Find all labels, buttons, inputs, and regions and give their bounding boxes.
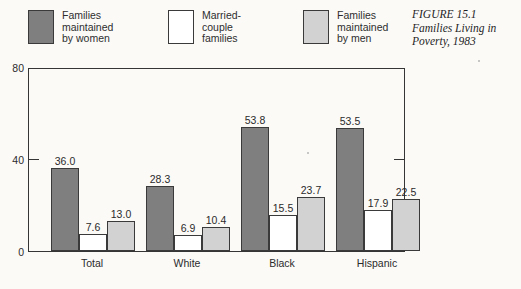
bar-hispanic-women[interactable]: 53.5: [336, 128, 364, 251]
x-tick-label-total: Total: [81, 257, 103, 269]
bar-black-married[interactable]: 15.5: [269, 215, 297, 251]
bar-value-black-women: 53.8: [245, 114, 265, 126]
legend-swatch-light-icon: [303, 10, 329, 44]
bar-black-men[interactable]: 23.7: [297, 197, 325, 252]
x-tick-label-white: White: [174, 257, 201, 269]
bar-hispanic-men[interactable]: 22.5: [392, 199, 420, 251]
bar-white-women[interactable]: 28.3: [146, 186, 174, 251]
y-tick-label-80: 80: [12, 62, 24, 74]
legend-item-married-couple-families: Married- couple families: [168, 10, 241, 45]
plot-frame: 36.0 7.6 13.0 28.3 6.9: [28, 68, 405, 252]
y-tick-label-40: 40: [12, 154, 24, 166]
bar-value-hispanic-married: 17.9: [368, 197, 388, 209]
figure-caption: FIGURE 15.1 Families Living in Poverty, …: [412, 8, 520, 49]
bar-value-white-married: 6.9: [181, 222, 196, 234]
bar-total-men[interactable]: 13.0: [107, 221, 135, 251]
legend-item-families-maintained-by-men: Families maintained by men: [303, 10, 388, 45]
figure-page: Families maintained by women Married- co…: [0, 0, 521, 289]
bar-black-women[interactable]: 53.8: [241, 127, 269, 251]
bar-value-total-men: 13.0: [111, 208, 131, 220]
bar-value-total-married: 7.6: [86, 221, 101, 233]
bar-white-married[interactable]: 6.9: [174, 235, 202, 251]
legend-label-families-maintained-by-men: Families maintained by men: [337, 10, 388, 45]
legend-label-families-maintained-by-women: Families maintained by women: [62, 10, 113, 45]
bar-value-black-married: 15.5: [273, 202, 293, 214]
bar-total-women[interactable]: 36.0: [51, 168, 79, 251]
x-tick-label-hispanic: Hispanic: [357, 257, 397, 269]
y-axis: 80 40 0: [0, 68, 24, 252]
bar-group-white: 28.3 6.9 10.4: [146, 69, 230, 251]
bar-value-hispanic-men: 22.5: [396, 186, 416, 198]
bar-group-hispanic: 53.5 17.9 22.5: [336, 69, 420, 251]
legend-swatch-white-icon: [168, 10, 194, 44]
scan-speck: [307, 152, 309, 154]
legend-label-married-couple-families: Married- couple families: [202, 10, 241, 45]
bar-value-black-men: 23.7: [301, 184, 321, 196]
legend-item-families-maintained-by-women: Families maintained by women: [28, 10, 113, 45]
chart-legend: Families maintained by women Married- co…: [0, 0, 400, 56]
y-tick-label-0: 0: [18, 246, 24, 258]
bar-group-total: 36.0 7.6 13.0: [51, 69, 135, 251]
bar-chart: 80 40 0 36.0 7.6 13.0: [0, 56, 521, 289]
bar-value-hispanic-women: 53.5: [340, 115, 360, 127]
legend-swatch-dark-icon: [28, 10, 54, 44]
bar-total-married[interactable]: 7.6: [79, 234, 107, 252]
bar-group-black: 53.8 15.5 23.7: [241, 69, 325, 251]
bar-value-white-men: 10.4: [206, 214, 226, 226]
bar-value-white-women: 28.3: [150, 173, 170, 185]
bar-white-men[interactable]: 10.4: [202, 227, 230, 251]
scan-speck: [478, 60, 480, 62]
x-tick-label-black: Black: [269, 257, 295, 269]
bar-value-total-women: 36.0: [55, 155, 75, 167]
bar-groups: 36.0 7.6 13.0 28.3 6.9: [29, 69, 404, 251]
bar-hispanic-married[interactable]: 17.9: [364, 210, 392, 251]
